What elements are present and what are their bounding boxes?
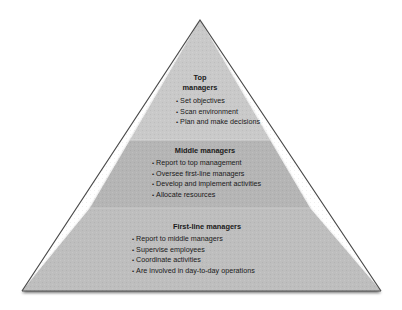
- top-managers-bullets: Set objectives Scan environment Plan and…: [176, 96, 252, 128]
- bullet-item: Supervise employees: [132, 245, 292, 256]
- bullet-item: Are involved in day-to-day operations: [132, 266, 292, 277]
- bullet-item: Plan and make decisions: [176, 117, 252, 128]
- bullet-item: Coordinate activities: [132, 255, 292, 266]
- bullet-item: Set objectives: [176, 96, 252, 107]
- top-managers-title-line1: Top: [162, 73, 238, 83]
- middle-managers-block: Middle managers Report to top management…: [140, 146, 280, 200]
- top-managers-title-line2: managers: [162, 83, 238, 93]
- first-line-managers-block: First-line managers Report to middle man…: [132, 222, 292, 276]
- management-pyramid-diagram: Top managers Set objectives Scan environ…: [0, 0, 402, 310]
- bullet-item: Allocate resources: [152, 190, 280, 201]
- bullet-item: Scan environment: [176, 107, 252, 118]
- bullet-item: Develop and implement activities: [152, 179, 280, 190]
- top-managers-block: Top managers Set objectives Scan environ…: [162, 73, 252, 128]
- bullet-item: Oversee first-line managers: [152, 169, 280, 180]
- bullet-item: Report to middle managers: [132, 234, 292, 245]
- bullet-item: Report to top management: [152, 158, 280, 169]
- first-line-managers-bullets: Report to middle managers Supervise empl…: [132, 234, 292, 276]
- top-managers-title: Top managers: [162, 73, 238, 93]
- middle-managers-bullets: Report to top management Oversee first-l…: [152, 158, 280, 200]
- first-line-managers-title: First-line managers: [132, 222, 282, 232]
- middle-managers-title: Middle managers: [140, 146, 270, 156]
